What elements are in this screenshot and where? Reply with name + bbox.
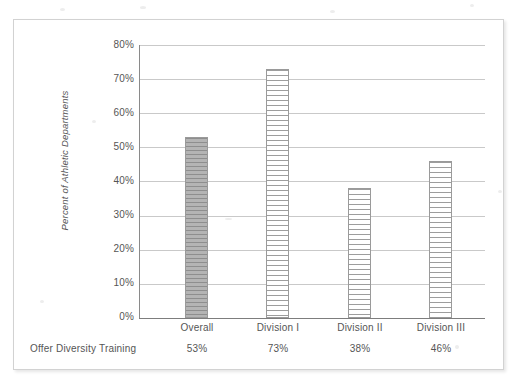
y-tick-label-10: 10% xyxy=(90,277,134,288)
bar-division-ii[interactable] xyxy=(348,188,371,318)
data-table-cell-overall: 53% xyxy=(152,343,242,354)
x-axis-line xyxy=(139,318,485,319)
y-tick-label-20: 20% xyxy=(90,243,134,254)
data-table-cell-division-i: 73% xyxy=(233,343,323,354)
data-table-cell-division-iii: 46% xyxy=(396,343,486,354)
x-tick-label-division-ii: Division II xyxy=(315,322,405,333)
gridline-80 xyxy=(140,45,485,46)
x-tick-label-overall: Overall xyxy=(152,322,242,333)
y-tick-label-30: 30% xyxy=(90,209,134,220)
y-tick-label-70: 70% xyxy=(90,73,134,84)
y-tick-label-40: 40% xyxy=(90,175,134,186)
bar-chart: Percent of Athletic Departments 80% 70% … xyxy=(0,0,518,388)
plot-area xyxy=(140,45,485,318)
bar-overall[interactable] xyxy=(185,137,208,318)
y-axis-tick-labels: 80% 70% 60% 50% 40% 30% 20% 10% 0% xyxy=(86,0,134,388)
data-table-row-label: Offer Diversity Training xyxy=(30,343,136,354)
bar-division-iii[interactable] xyxy=(429,161,452,318)
y-tick-label-60: 60% xyxy=(90,107,134,118)
y-tick-label-0: 0% xyxy=(90,311,134,322)
x-tick-label-division-i: Division I xyxy=(233,322,323,333)
y-axis-title: Percent of Athletic Departments xyxy=(59,71,70,251)
data-table-cell-division-ii: 38% xyxy=(315,343,405,354)
gridline-60 xyxy=(140,113,485,114)
bar-division-i[interactable] xyxy=(266,69,289,318)
gridline-70 xyxy=(140,79,485,80)
y-tick-label-50: 50% xyxy=(90,141,134,152)
y-tick-label-80: 80% xyxy=(90,39,134,50)
x-tick-label-division-iii: Division III xyxy=(396,322,486,333)
